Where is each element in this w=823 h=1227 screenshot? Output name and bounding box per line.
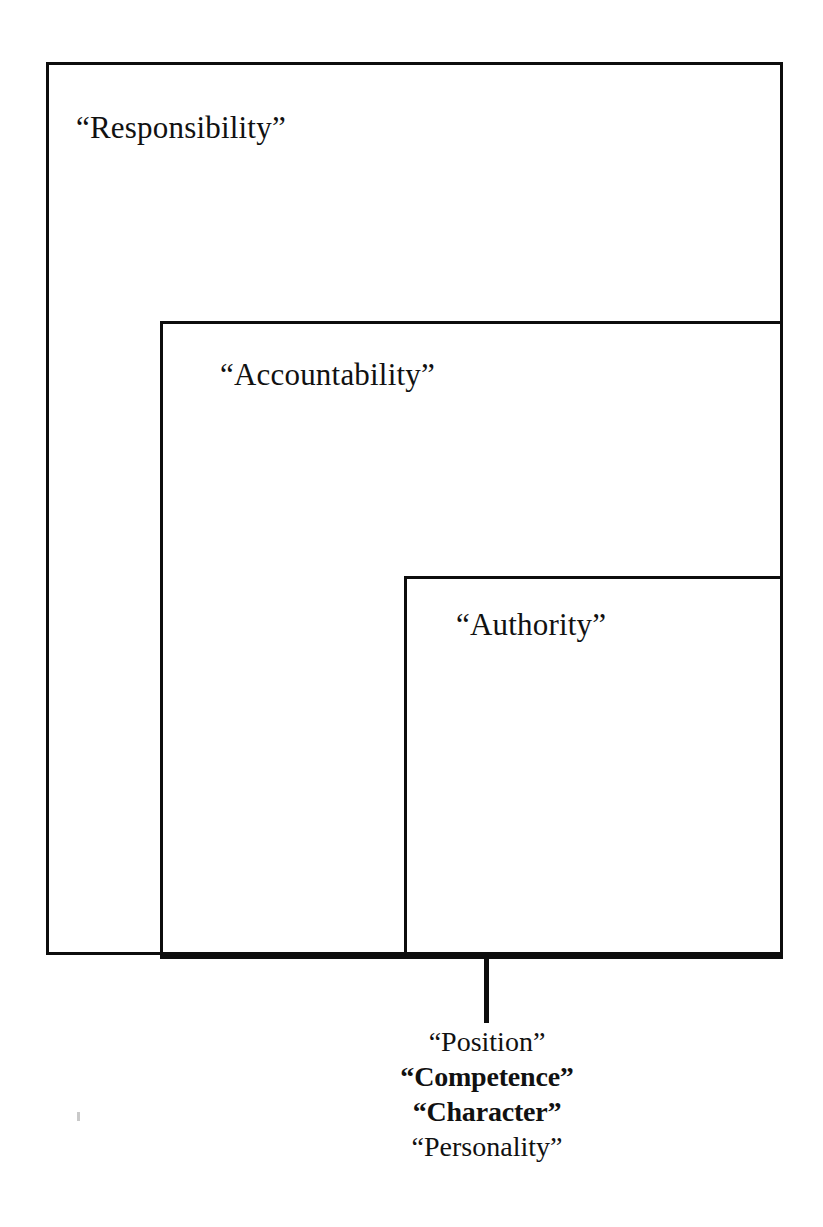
- base-label-personality: “Personality”: [287, 1129, 687, 1164]
- box-label-accountability: “Accountability”: [220, 359, 435, 390]
- box-label-authority: “Authority”: [456, 609, 606, 640]
- base-label-character: “Character”: [287, 1094, 687, 1129]
- base-label-competence: “Competence”: [287, 1059, 687, 1094]
- scan-artifact-speck: [77, 1112, 80, 1121]
- leader-line: [484, 957, 489, 1023]
- bases-of-authority-list: “Position” “Competence” “Character” “Per…: [287, 1024, 687, 1164]
- diagram-canvas: “Responsibility” “Accountability” “Autho…: [0, 0, 823, 1227]
- base-label-position: “Position”: [287, 1024, 687, 1059]
- box-label-responsibility: “Responsibility”: [76, 112, 286, 143]
